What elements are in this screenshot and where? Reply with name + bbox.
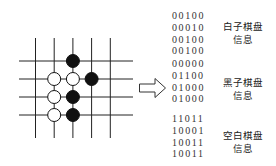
white-stone — [66, 73, 79, 86]
black-stone — [66, 109, 79, 122]
matrix-row: 00000 — [172, 58, 205, 70]
white-stone — [48, 91, 61, 104]
matrix-row: 10001 — [172, 125, 205, 137]
white-matrix: 00100 00010 00100 00100 — [172, 10, 205, 57]
white-stone — [48, 73, 61, 86]
hollow-right-arrow-icon — [140, 79, 166, 98]
matrix-row: 00100 — [172, 10, 205, 22]
label-line: 白子棋盘 — [218, 20, 268, 33]
matrix-row: 01100 — [172, 70, 205, 82]
matrix-row: 10011 — [172, 137, 205, 149]
label-line: 黑子棋盘 — [218, 76, 268, 89]
matrix-row: 00100 — [172, 34, 205, 46]
black-stone — [66, 55, 79, 68]
label-line: 信息 — [218, 89, 268, 102]
label-line: 空白棋盘 — [218, 129, 268, 142]
black-stone — [66, 91, 79, 104]
black-matrix-label: 黑子棋盘 信息 — [218, 76, 268, 102]
matrix-row: 01000 — [172, 82, 205, 94]
empty-matrix: 11011 10001 10011 10011 — [172, 113, 205, 160]
go-board-grid — [19, 38, 133, 138]
black-matrix: 00000 01100 01000 01000 — [172, 58, 205, 105]
matrix-row: 00010 — [172, 22, 205, 34]
black-stone — [85, 73, 98, 86]
white-stone — [48, 109, 61, 122]
matrix-row: 10011 — [172, 148, 205, 160]
white-matrix-label: 白子棋盘 信息 — [218, 20, 268, 46]
label-line: 信息 — [218, 33, 268, 46]
label-line: 信息 — [218, 142, 268, 155]
matrix-row: 01000 — [172, 93, 205, 105]
matrix-row: 00100 — [172, 45, 205, 57]
empty-matrix-label: 空白棋盘 信息 — [218, 129, 268, 155]
matrix-row: 11011 — [172, 113, 205, 125]
